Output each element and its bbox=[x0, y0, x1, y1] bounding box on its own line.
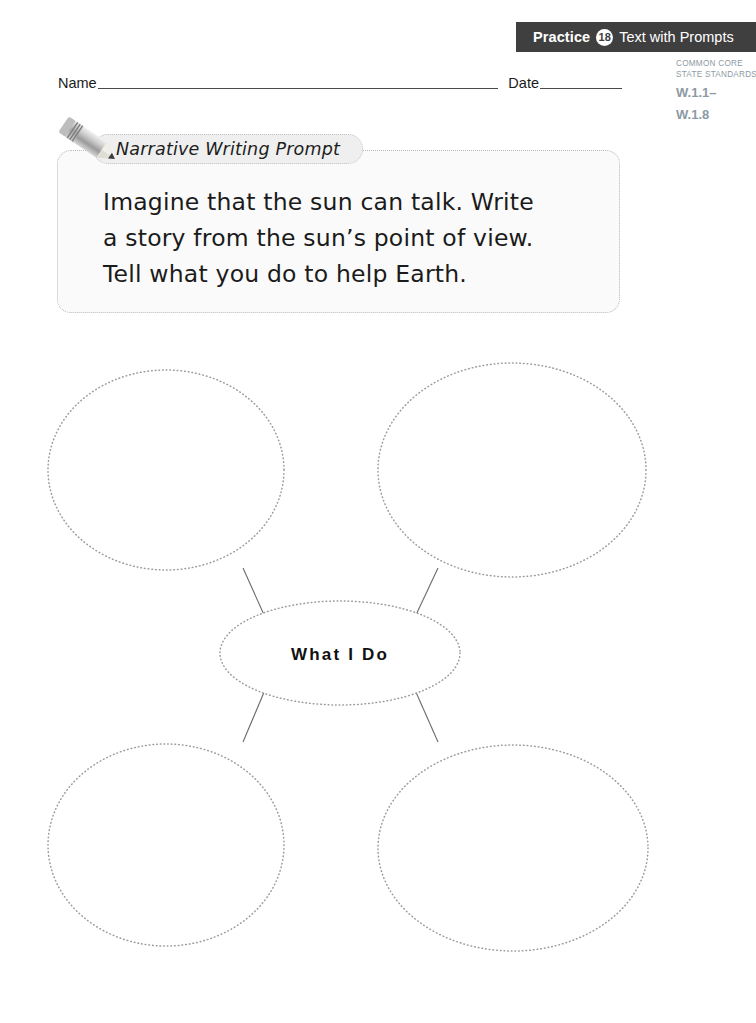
pencil-icon bbox=[56, 116, 122, 168]
oval-center[interactable] bbox=[220, 601, 460, 705]
oval-top-right[interactable] bbox=[378, 363, 646, 577]
narrative-writing-prompt-box: Imagine that the sun can talk. Write a s… bbox=[57, 150, 620, 313]
date-label: Date bbox=[508, 75, 539, 92]
oval-bottom-left[interactable] bbox=[48, 744, 284, 946]
connector-center-to-bottom-left bbox=[243, 690, 265, 742]
standards-heading-line2: State Standards bbox=[676, 70, 754, 81]
prompt-text-line-1: Imagine that the sun can talk. Write bbox=[103, 184, 603, 220]
practice-number-badge: 18 bbox=[596, 29, 613, 46]
practice-banner: Practice 18 Text with Prompts bbox=[516, 22, 756, 52]
prompt-text-line-2: a story from the sun’s point of view. bbox=[103, 220, 603, 256]
practice-label: Practice bbox=[533, 29, 590, 45]
prompt-header-tab: Narrative Writing Prompt bbox=[93, 134, 363, 164]
connector-center-to-top-right bbox=[415, 568, 438, 617]
date-input-line[interactable] bbox=[540, 87, 622, 89]
standards-code-second: W.1.8 bbox=[676, 105, 754, 124]
oval-top-left[interactable] bbox=[48, 370, 284, 570]
prompt-text-line-3: Tell what you do to help Earth. bbox=[103, 256, 603, 292]
standards-code-first: W.1.1– bbox=[676, 83, 754, 102]
standards-heading-line1: Common Core bbox=[676, 59, 754, 70]
prompt-text: Imagine that the sun can talk. Write a s… bbox=[103, 184, 603, 292]
connector-center-to-top-left bbox=[243, 568, 265, 617]
practice-subject-label: Text with Prompts bbox=[619, 29, 733, 45]
name-input-line[interactable] bbox=[98, 87, 499, 89]
connector-lines bbox=[243, 568, 438, 742]
name-label: Name bbox=[58, 75, 97, 92]
connector-center-to-bottom-right bbox=[415, 690, 438, 742]
center-oval-label: What I Do bbox=[291, 645, 389, 664]
prompt-tab-label: Narrative Writing Prompt bbox=[116, 139, 340, 159]
name-date-row: Name Date bbox=[58, 70, 622, 92]
common-core-standards: Common Core State Standards W.1.1– W.1.8 bbox=[676, 59, 754, 124]
oval-bottom-right[interactable] bbox=[378, 745, 648, 951]
